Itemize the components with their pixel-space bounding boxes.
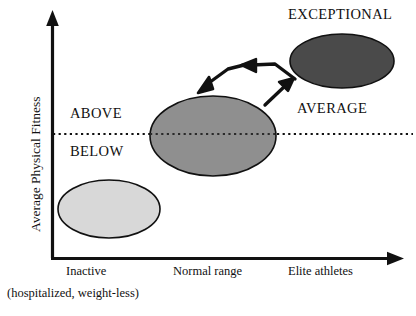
figure-canvas: Average Physical Fitness EXCEPTIONAL AVE… bbox=[0, 0, 416, 316]
y-axis-arrowhead-icon bbox=[46, 10, 59, 26]
label-exceptional: EXCEPTIONAL bbox=[288, 6, 392, 23]
arrow-up-left-shaft bbox=[252, 64, 295, 79]
label-average: AVERAGE bbox=[297, 100, 367, 117]
arrow-down-left-head-icon bbox=[198, 77, 213, 93]
x-tick-inactive: Inactive bbox=[66, 264, 106, 279]
label-below: BELOW bbox=[70, 143, 124, 160]
label-above: ABOVE bbox=[70, 105, 122, 122]
x-axis-sublabel: (hospitalized, weight-less) bbox=[7, 286, 139, 301]
bubble-inactive bbox=[58, 180, 160, 238]
arrow-up-right-shaft bbox=[265, 86, 285, 105]
x-tick-normal-range: Normal range bbox=[173, 264, 242, 279]
bubble-elite-athletes bbox=[290, 34, 394, 88]
y-axis-label: Average Physical Fitness bbox=[28, 97, 44, 232]
bubble-normal-range bbox=[150, 96, 276, 176]
x-axis-arrowhead-icon bbox=[387, 252, 404, 265]
x-tick-elite-athletes: Elite athletes bbox=[288, 264, 353, 279]
arrow-up-left-head-icon bbox=[241, 59, 256, 72]
